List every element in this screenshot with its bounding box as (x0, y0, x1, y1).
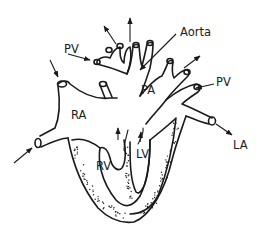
stipple-dot (83, 178, 84, 179)
stipple-dot (103, 203, 104, 204)
stipple-dot (119, 213, 120, 214)
stipple-dot (128, 160, 129, 161)
stipple-dot (83, 164, 84, 165)
stipple-dot (147, 203, 148, 204)
stipple-dot (167, 155, 168, 156)
stipple-dot (173, 123, 174, 124)
stipple-dot (165, 159, 166, 160)
stipple-dot (74, 155, 75, 156)
stipple-dot (176, 128, 177, 129)
stipple-dot (115, 211, 116, 212)
stipple-dot (128, 179, 129, 180)
arrow-top-left-out (104, 26, 116, 44)
stipple-dot (93, 194, 94, 195)
stipple-dot (154, 197, 155, 198)
stipple-dot (128, 188, 129, 189)
stipple-dot (126, 153, 127, 154)
stipple-dot (102, 201, 103, 202)
stipple-dot (92, 191, 93, 192)
stipple-dot (86, 184, 87, 185)
stipple-dot (160, 177, 161, 178)
stipple-dot (126, 177, 127, 178)
heart-diagram: PV Aorta PA PV RA RV LV LA (0, 0, 260, 241)
stipple-dot (76, 147, 77, 148)
stipple-dot (140, 212, 141, 213)
label-aorta: Aorta (180, 25, 211, 39)
stipple-dot (142, 211, 143, 212)
stipple-dot (127, 147, 128, 148)
stipple-dot (113, 208, 114, 209)
arrow-pa-out (184, 56, 200, 68)
stipple-dot (115, 215, 116, 216)
stipple-dot (131, 198, 132, 199)
stipple-dot (157, 195, 158, 196)
stipple-dot (130, 196, 131, 197)
stipple-dot (166, 161, 167, 162)
stipple-dot (154, 192, 155, 193)
stipple-dot (128, 174, 129, 175)
stipple-dot (74, 157, 75, 158)
stipple-dot (97, 201, 98, 202)
stipple-dot (123, 217, 124, 218)
stipple-dot (74, 150, 75, 151)
stipple-dot (92, 189, 93, 190)
stipple-dot (77, 153, 78, 154)
label-lv: LV (136, 147, 149, 161)
stipple-dot (111, 205, 112, 206)
stipple-dot (126, 165, 127, 166)
stipple-dot (129, 197, 130, 198)
stipple-dot (89, 189, 90, 190)
arrow-la-out (216, 124, 232, 135)
stipple-dot (117, 212, 118, 213)
stipple-dot (124, 144, 125, 145)
stipple-dot (173, 142, 174, 143)
stipple-dot (162, 178, 163, 179)
label-pv-left: PV (64, 42, 79, 56)
stipple-dot (167, 177, 168, 178)
stipple-dot (175, 122, 176, 123)
stipple-dot (161, 179, 162, 180)
stipple-dot (82, 175, 83, 176)
stipple-dot (80, 170, 81, 171)
stipple-dot (170, 161, 171, 162)
vessel-bundle-left (94, 44, 131, 75)
stipple-dot (95, 199, 96, 200)
label-pa: PA (141, 83, 155, 97)
stipple-dot (77, 151, 78, 152)
stipple-dot (125, 173, 126, 174)
stipple-dot (113, 207, 114, 208)
stipple-dot (84, 174, 85, 175)
stipple-dot (162, 174, 163, 175)
stipple-dot (128, 155, 129, 156)
arrow-lv-up (140, 132, 141, 142)
stipple-dot (124, 213, 125, 214)
stipple-dot (166, 165, 167, 166)
stipple-dot (109, 206, 110, 207)
stipple-dot (165, 167, 166, 168)
label-la: LA (233, 138, 248, 152)
label-ra: RA (71, 108, 87, 122)
stipple-dot (178, 128, 179, 129)
stipple-dot (98, 198, 99, 199)
arrow-svc-in (50, 60, 58, 77)
stipple-dot (170, 151, 171, 152)
stipple-dot (152, 207, 153, 208)
stipple-dot (127, 188, 128, 189)
stipple-dot (124, 150, 125, 151)
stipple-dot (154, 194, 155, 195)
stipple-dot (152, 198, 153, 199)
stipple-dot (161, 172, 162, 173)
stipple-dot (126, 162, 127, 163)
stipple-dot (110, 207, 111, 208)
stipple-dot (175, 141, 176, 142)
stipple-dot (92, 185, 93, 186)
stipple-dot (173, 128, 174, 129)
stipple-dot (172, 132, 173, 133)
label-pv-right: PV (216, 75, 231, 89)
stipple-dot (127, 182, 128, 183)
stipple-dot (157, 191, 158, 192)
stipple-dot (159, 185, 160, 186)
stipple-dot (83, 173, 84, 174)
stipple-dot (98, 200, 99, 201)
stipple-dot (151, 202, 152, 203)
